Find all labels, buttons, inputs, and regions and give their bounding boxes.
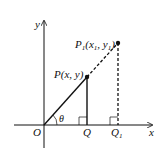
point-Q-label: Q	[83, 126, 91, 138]
origin-label: O	[33, 126, 41, 138]
x-axis-label: x	[148, 126, 154, 138]
point-Q1-label: Q1	[111, 126, 122, 140]
right-angle-marker-Q	[79, 117, 87, 125]
segment-OP	[44, 77, 87, 125]
coordinate-diagram: y x O θ P(x, y) P1(x1, y1) Q Q1	[0, 0, 165, 154]
Q1-name: Q	[111, 126, 119, 138]
angle-label-theta: θ	[59, 113, 64, 124]
point-P1-label: P1(x1, y1)	[74, 38, 115, 52]
point-P	[85, 75, 89, 79]
point-P-label: P(x, y)	[53, 68, 84, 81]
right-angle-marker-Q1	[110, 117, 118, 125]
Q1-subscript: 1	[119, 132, 123, 140]
angle-arc-theta	[53, 115, 57, 125]
P1-close: )	[110, 38, 115, 51]
y-axis-label: y	[34, 18, 40, 30]
point-P1	[116, 41, 120, 45]
P1-open: (x	[85, 38, 94, 51]
P1-mid: , y	[97, 38, 108, 50]
